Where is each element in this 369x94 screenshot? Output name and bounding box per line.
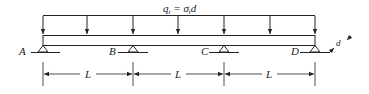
support-c	[209, 46, 239, 53]
support-label-b: B	[109, 45, 116, 57]
beam	[43, 36, 315, 46]
span-label-ab: L	[84, 68, 91, 80]
span-label-cd: L	[265, 68, 272, 80]
end-dimension-label: d	[336, 38, 341, 48]
end-dimension-d	[330, 36, 351, 52]
support-label-c: C	[201, 45, 209, 57]
support-b	[118, 46, 148, 53]
support-label-a: A	[18, 45, 26, 57]
span-label-bc: L	[174, 68, 181, 80]
support-a	[31, 46, 60, 53]
distributed-load	[43, 16, 315, 35]
support-d	[300, 46, 330, 53]
load-label: qt = σtd	[163, 2, 197, 16]
support-label-d: D	[290, 45, 299, 57]
beam-diagram: qt = σtd A B C D d L L L	[0, 0, 369, 94]
